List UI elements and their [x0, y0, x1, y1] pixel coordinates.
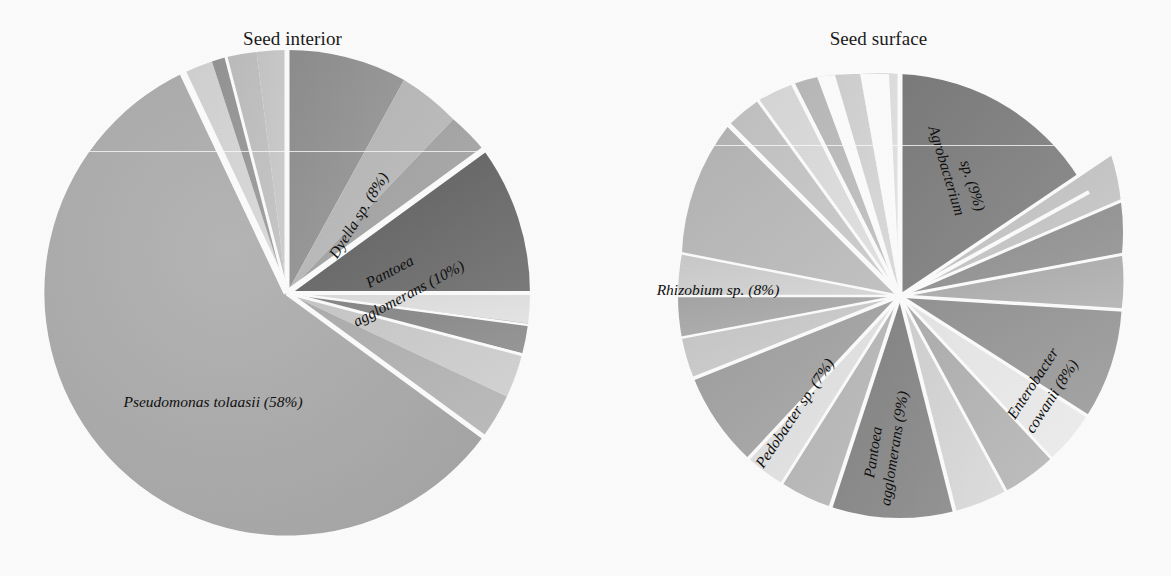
- pie-chart-seed-surface: Agrobacterium sp. (9%) Enterobacter cowa…: [586, 0, 1171, 576]
- pie-label-pseudomonas: Pseudomonas tolaasii (58%): [122, 393, 302, 411]
- pie-chart-seed-interior: Dyella sp. (8%) Pantoea agglomerans (10%…: [0, 0, 585, 576]
- panel-seed-interior: Seed interior: [0, 0, 585, 576]
- pie-label-rhizobium: Rhizobium sp. (8%): [656, 281, 780, 299]
- figure-root: Seed interior: [0, 0, 1171, 576]
- panel-seed-surface: Seed surface: [586, 0, 1171, 576]
